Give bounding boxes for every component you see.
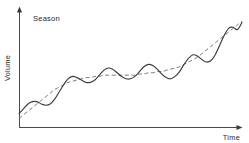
x-axis-arrowhead: [237, 125, 243, 130]
y-axis: [17, 7, 22, 129]
x-axis: [20, 125, 243, 130]
trend-line-dashed: [19, 21, 242, 118]
chart-canvas: Season Time Volume: [0, 0, 249, 143]
season-annotation-label: Season: [33, 14, 60, 23]
seasonal-decomposition-chart: Season Time Volume: [0, 0, 249, 143]
x-axis-label: Time: [223, 133, 240, 142]
seasonal-line-solid: [19, 22, 242, 113]
y-axis-arrowhead: [17, 7, 22, 13]
y-axis-label: Volume: [3, 55, 12, 81]
